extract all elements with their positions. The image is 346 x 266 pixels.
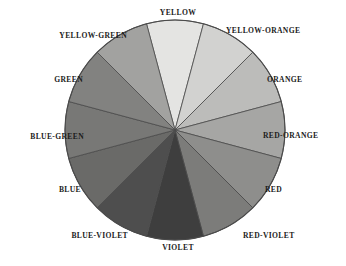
wheel-label-yellow-green: YELLOW-GREEN: [59, 32, 127, 40]
wheel-label-violet: VIOLET: [162, 244, 194, 252]
wheel-label-blue: BLUE: [59, 186, 81, 194]
wheel-label-red-violet: RED-VIOLET: [243, 232, 295, 240]
wheel-label-yellow-orange: YELLOW-ORANGE: [226, 27, 300, 35]
wheel-segment-group: [65, 20, 285, 240]
wheel-label-yellow: YELLOW: [160, 9, 196, 17]
wheel-label-red: RED: [265, 186, 282, 194]
wheel-label-red-orange: RED-ORANGE: [263, 132, 318, 140]
color-wheel-figure: YELLOWYELLOW-ORANGEORANGERED-ORANGEREDRE…: [0, 0, 346, 266]
wheel-label-blue-violet: BLUE-VIOLET: [71, 232, 128, 240]
wheel-label-green: GREEN: [54, 76, 83, 84]
wheel-label-blue-green: BLUE-GREEN: [30, 133, 84, 141]
wheel-label-orange: ORANGE: [267, 76, 302, 84]
